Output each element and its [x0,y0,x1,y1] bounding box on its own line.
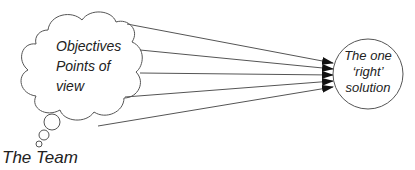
thought-bubble-3 [36,141,42,147]
solution-line-1: The one [328,48,408,64]
solution-text: The one ‘right’ solution [328,48,408,96]
cloud-line-view: view [56,76,121,96]
diagram: Objectives Points of view The one ‘right… [0,0,415,170]
cloud-text: Objectives Points of view [56,36,121,96]
arrow-2 [140,50,333,69]
cloud-line-objectives: Objectives [56,36,121,56]
cloud-line-points-of: Points of [56,56,121,76]
solution-line-3: solution [328,80,408,96]
arrow-3 [140,73,333,75]
arrow-1 [127,24,333,63]
arrow-4 [125,81,333,97]
thought-bubble-1 [44,114,60,130]
thought-bubble-2 [39,130,49,140]
team-label: The Team [2,148,78,168]
solution-line-2: ‘right’ [328,64,408,80]
